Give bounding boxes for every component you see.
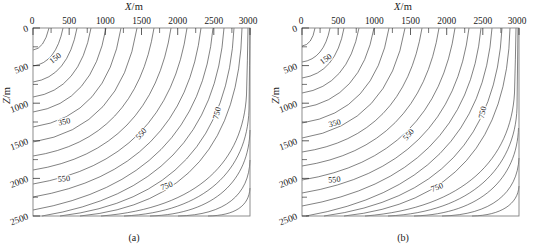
contour-label: 350	[328, 118, 342, 130]
plot-area-a: 0 500 1000 1500 2000 2500 3000 0 500 100…	[0, 0, 268, 245]
x-tick-labels-b: 0 500 1000 1500 2000 2500 3000	[299, 16, 527, 26]
x-tick-label: 0	[30, 16, 35, 26]
z-minor-ticks-a	[33, 47, 38, 197]
z-tick-label: 2000	[278, 174, 299, 190]
contour-label: 550	[328, 175, 341, 185]
contour-label: 150	[318, 52, 333, 66]
z-tick-label: 2500	[9, 211, 30, 227]
z-tick-label: 2000	[9, 174, 30, 190]
x-tick-label: 2000	[168, 16, 187, 26]
contour-label: 550	[401, 127, 416, 142]
x-tick-label: 3000	[239, 16, 258, 26]
x-tick-label: 3000	[508, 16, 527, 26]
z-tick-label: 1500	[278, 136, 299, 152]
z-tick-labels-a: 0 500 1000 1500 2000 2500	[9, 23, 30, 227]
x-tick-label: 1000	[96, 16, 115, 26]
plot-area-b: 0 500 1000 1500 2000 2500 3000 0 500 100…	[269, 0, 537, 245]
contour-label: 750	[211, 106, 223, 120]
z-minor-ticks-b	[302, 47, 307, 197]
contour-label: 750	[159, 180, 174, 193]
x-major-ticks-b	[302, 28, 519, 35]
panel-a: X/m Z/m	[0, 0, 268, 245]
x-tick-label: 0	[299, 16, 304, 26]
x-tick-label: 1500	[132, 16, 151, 26]
x-tick-label: 500	[62, 16, 76, 26]
x-tick-label: 2500	[473, 16, 492, 26]
z-tick-label: 1500	[9, 136, 30, 152]
z-tick-labels-b: 0 500 1000 1500 2000 2500	[278, 23, 299, 227]
x-tick-label: 1000	[365, 16, 384, 26]
contour-label: 550	[134, 126, 149, 141]
panel-caption-a: (a)	[0, 232, 268, 243]
z-tick-label: 500	[13, 61, 30, 75]
panel-b: X/m Z/m	[269, 0, 537, 245]
x-tick-label: 500	[331, 16, 345, 26]
x-major-ticks-a	[33, 28, 250, 35]
z-tick-label: 2500	[278, 211, 299, 227]
x-tick-label: 2500	[204, 16, 223, 26]
x-tick-label: 1500	[401, 16, 420, 26]
panel-caption-b: (b)	[269, 232, 537, 243]
z-tick-label: 500	[282, 61, 299, 75]
z-tick-label: 1000	[9, 99, 30, 115]
x-tick-label: 2000	[437, 16, 456, 26]
contour-label: 750	[430, 181, 445, 194]
contour-label: 550	[57, 174, 70, 184]
contour-label: 350	[57, 116, 71, 127]
contour-label: 750	[477, 106, 488, 120]
contour-figure: X/m Z/m	[0, 0, 537, 245]
x-tick-labels-a: 0 500 1000 1500 2000 2500 3000	[30, 16, 258, 26]
z-tick-label: 1000	[278, 99, 299, 115]
contour-labels-b: 150 150 350 350 550 550 550 550 750 750 …	[318, 52, 488, 194]
contour-label: 150	[48, 51, 63, 66]
